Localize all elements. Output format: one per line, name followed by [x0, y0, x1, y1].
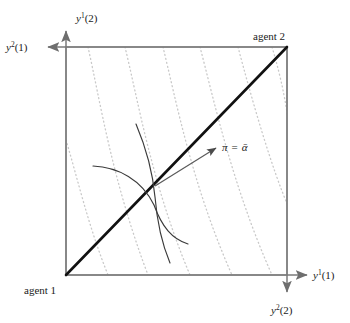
edgeworth-box-figure: π=ᾱ y1(2) y2(1) y1(1) y2(2) agent 1 age… — [0, 0, 350, 323]
agent2-indifference-curve — [136, 124, 170, 263]
price-vector-alpha: ᾱ — [242, 141, 248, 153]
axis-label-y2-good2: y2(2) — [270, 303, 293, 317]
price-vector-pi: π — [222, 141, 228, 153]
axis-label-y1-good2: y1(2) — [75, 11, 98, 25]
agent2-origin-label: agent 2 — [253, 30, 285, 42]
price-vector-equals: = — [232, 141, 238, 153]
agent1-origin-label: agent 1 — [24, 284, 56, 296]
diagram-canvas: π=ᾱ y1(2) y2(1) y1(1) y2(2) agent 1 age… — [0, 0, 350, 323]
axis-label-y1-good1: y1(1) — [312, 268, 335, 282]
price-vector-label: π=ᾱ — [222, 141, 248, 153]
axis-label-y2-good1: y2(1) — [5, 40, 28, 54]
dotted-curve — [88, 47, 148, 275]
dotted-curve — [163, 47, 232, 275]
price-vector-arrow — [155, 148, 216, 186]
dotted-curve — [200, 47, 272, 275]
